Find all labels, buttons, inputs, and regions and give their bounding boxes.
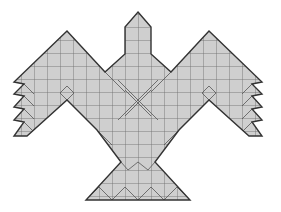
eagle-body-fill [0, 0, 281, 212]
eagle-figure [0, 0, 281, 212]
eagle-diagram [0, 0, 281, 212]
